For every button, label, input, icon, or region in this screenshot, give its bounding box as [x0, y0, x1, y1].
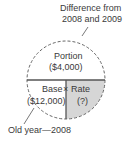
top-callout-leader — [82, 27, 88, 36]
rate-value: (?) — [77, 96, 88, 106]
base-label: Base — [42, 84, 63, 94]
callout-top-line1: Difference from — [60, 3, 121, 13]
rate-label: Rate — [71, 84, 90, 94]
bottom-callout-leader — [24, 108, 34, 124]
base-value: ($12,000) — [27, 96, 66, 106]
portion-value: ($4,000) — [49, 62, 83, 72]
callout-top-line2: 2008 and 2009 — [62, 14, 122, 24]
multiply-operator: × — [63, 84, 68, 94]
portion-label: Portion — [54, 51, 83, 61]
callout-bottom: Old year—2008 — [8, 125, 71, 135]
